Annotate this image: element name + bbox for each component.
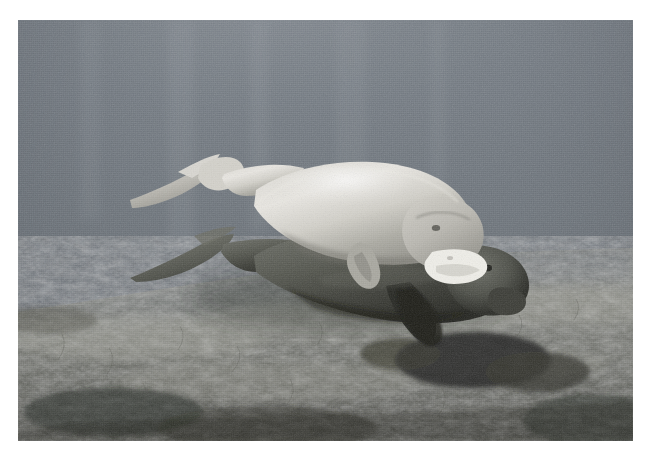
- photo-artwork: [18, 20, 633, 441]
- underwater-photograph: [18, 20, 633, 441]
- screenshot-canvas: Two dugongs swimming together above a se…: [0, 0, 651, 462]
- film-grain-overlay: [18, 20, 633, 441]
